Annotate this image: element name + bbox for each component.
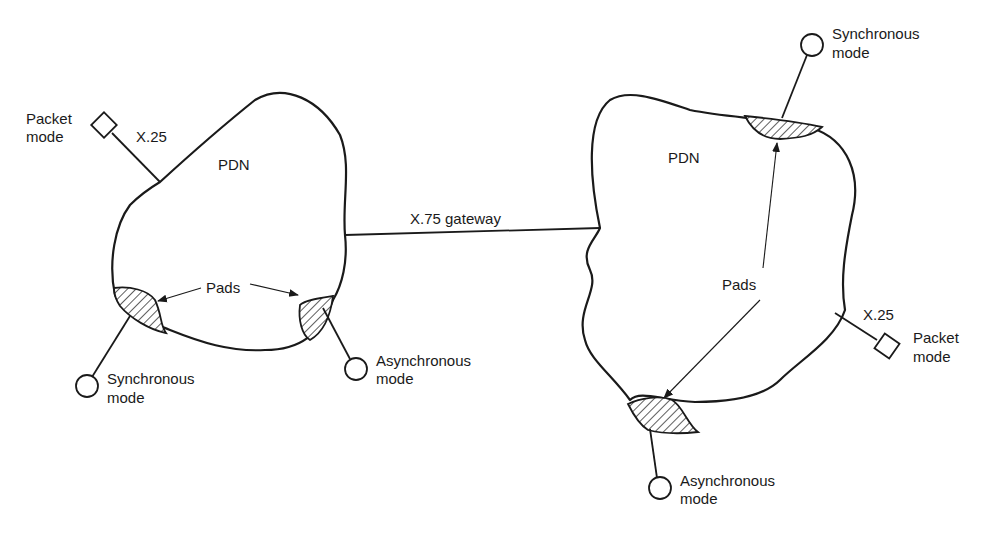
right-pdn-network: PDN Synchronous mode Asynchronous mode P… [583,25,960,507]
left-packet-mode-label-2: mode [26,128,64,145]
left-async-label-1: Asynchronous [376,352,471,369]
right-async-label-2: mode [680,490,718,507]
right-packet-mode-label-1: Packet [913,329,960,346]
right-async-label-1: Asynchronous [680,472,775,489]
x75-gateway-link [345,228,600,235]
right-async-link [650,429,657,478]
left-sync-pad [114,288,166,334]
left-pdn-label: PDN [218,156,250,173]
x75-gateway-label: X.75 gateway [410,210,501,227]
right-packet-mode-label-2: mode [913,348,951,365]
left-sync-label-2: mode [107,389,145,406]
right-async-terminal-icon [649,477,671,499]
right-packet-mode-terminal-icon [874,333,899,358]
right-sync-link [782,55,807,118]
right-sync-label-1: Synchronous [832,25,920,42]
left-async-label-2: mode [376,370,414,387]
left-packet-mode-label-1: Packet [26,110,73,127]
left-pads-arrow-async [250,284,298,295]
right-pads-arrow-async [664,300,760,398]
left-pads-label: Pads [206,279,240,296]
pdn-interconnection-diagram: PDN Packet mode X.25 Pads Synchronous mo… [0,0,990,535]
right-async-pad [628,397,698,433]
right-sync-pad [745,116,822,139]
right-sync-label-2: mode [832,44,870,61]
left-sync-link [92,316,130,377]
left-sync-label-1: Synchronous [107,370,195,387]
left-async-link [323,308,350,359]
right-pdn-cloud [583,95,856,402]
x75-gateway: X.75 gateway [345,210,600,235]
left-x25-label: X.25 [136,128,167,145]
right-pads-label: Pads [722,276,756,293]
left-sync-terminal-icon [76,375,98,397]
right-pads-arrow-sync [763,143,777,268]
left-pads-arrow-sync [158,288,201,301]
right-pdn-label: PDN [668,149,700,166]
left-async-terminal-icon [345,358,367,380]
left-pdn-network: PDN Packet mode X.25 Pads Synchronous mo… [26,93,471,406]
right-sync-terminal-icon [801,34,823,56]
right-x25-label: X.25 [863,306,894,323]
